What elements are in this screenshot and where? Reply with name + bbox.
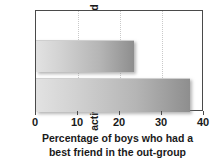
x-axis-tick-labels: 010203040	[0, 116, 211, 130]
x-axis-tick-label: 20	[113, 116, 125, 129]
x-axis-tick-label: 10	[71, 116, 83, 129]
x-axis-title-line-1: Percentage of boys who had a	[24, 131, 211, 145]
bar	[36, 78, 190, 112]
x-axis-tickmark	[203, 111, 204, 115]
x-axis-tickmark	[119, 111, 120, 115]
x-axis-title-line-2: best friend in the out-group	[24, 145, 211, 159]
x-axis-tick-label: 30	[155, 116, 167, 129]
x-axis-tick-label: 0	[32, 116, 38, 129]
bar	[36, 40, 134, 72]
bar-chart: After cooperative activities were introd…	[0, 0, 211, 165]
x-axis-tick-label: 40	[197, 116, 209, 129]
y-axis-label: After cooperative activities were introd…	[0, 0, 32, 135]
x-axis-tickmark	[35, 111, 36, 115]
x-axis-title: Percentage of boys who had a best friend…	[24, 131, 211, 159]
plot-area	[35, 10, 203, 111]
x-axis-tickmark	[77, 111, 78, 115]
x-axis-tickmark	[161, 111, 162, 115]
